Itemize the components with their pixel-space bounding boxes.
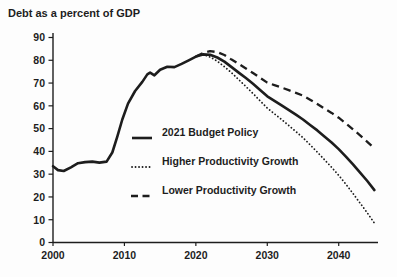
dotted-line-icon bbox=[131, 157, 153, 165]
y-tick-label-60: 60 bbox=[33, 100, 45, 112]
y-tick-label-70: 70 bbox=[33, 77, 45, 89]
y-tick-label-50: 50 bbox=[33, 122, 45, 134]
solid-line-icon bbox=[131, 128, 153, 136]
legend-item-budget-policy: 2021 Budget Policy bbox=[131, 124, 299, 140]
y-tick-label-10: 10 bbox=[33, 214, 45, 226]
legend-label-higher-productivity: Higher Productivity Growth bbox=[162, 155, 299, 167]
legend: 2021 Budget Policy Higher Productivity G… bbox=[131, 124, 299, 211]
y-tick-label-20: 20 bbox=[33, 191, 45, 203]
y-tick-label-40: 40 bbox=[33, 145, 45, 157]
legend-item-lower-productivity: Lower Productivity Growth bbox=[131, 182, 299, 198]
x-tick-label-2010: 2010 bbox=[113, 249, 137, 261]
legend-label-budget-policy: 2021 Budget Policy bbox=[162, 126, 258, 138]
x-tick-label-2030: 2030 bbox=[256, 249, 280, 261]
y-tick-label-90: 90 bbox=[33, 31, 45, 43]
y-tick-label-80: 80 bbox=[33, 54, 45, 66]
x-tick-label-2020: 2020 bbox=[184, 249, 208, 261]
y-tick-label-30: 30 bbox=[33, 168, 45, 180]
x-tick-label-2040: 2040 bbox=[327, 249, 351, 261]
x-tick-label-2000: 2000 bbox=[41, 249, 65, 261]
chart-figure: Debt as a percent of GDP 010203040506070… bbox=[0, 0, 397, 277]
y-tick-label-0: 0 bbox=[39, 236, 45, 248]
dashed-line-icon bbox=[131, 186, 153, 194]
legend-label-lower-productivity: Lower Productivity Growth bbox=[162, 184, 296, 196]
legend-item-higher-productivity: Higher Productivity Growth bbox=[131, 153, 299, 169]
